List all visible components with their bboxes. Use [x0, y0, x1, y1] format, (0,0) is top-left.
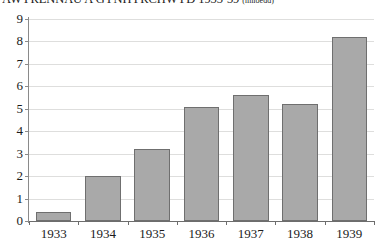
x-axis-tick-label: 1933	[29, 226, 78, 241]
bar	[332, 37, 367, 221]
y-axis-tick-label: 2	[0, 169, 23, 182]
bar	[233, 95, 268, 221]
bar	[36, 212, 71, 221]
x-axis-tick-mark	[177, 221, 178, 225]
y-axis-tick-label: 6	[0, 79, 23, 92]
x-axis-tick-label: 1935	[128, 226, 177, 241]
x-axis-tick-mark	[226, 221, 227, 225]
bars-layer	[29, 19, 374, 221]
bar	[134, 149, 169, 221]
y-axis-tick-label: 5	[0, 102, 23, 115]
x-axis-tick-label: 1939	[325, 226, 374, 241]
x-axis-tick-mark	[275, 221, 276, 225]
bar	[184, 107, 219, 221]
chart-title-main: AWYRENNAU A GYNHYRCHWYD 1933-39	[2, 0, 239, 6]
y-axis-tick-label: 1	[0, 192, 23, 205]
y-axis-tick-label: 4	[0, 124, 23, 137]
y-axis-tick-label: 9	[0, 12, 23, 25]
axis-baseline	[29, 221, 374, 222]
x-axis-tick-label: 1937	[226, 226, 275, 241]
x-axis-tick-mark	[325, 221, 326, 225]
chart-title: AWYRENNAU A GYNHYRCHWYD 1933-39 (miloedd…	[2, 0, 373, 6]
x-axis-tick-label: 1936	[177, 226, 226, 241]
y-axis-tick-label: 0	[0, 214, 23, 227]
chart-title-units: (miloedd)	[242, 0, 274, 5]
y-axis-tick-label: 7	[0, 57, 23, 70]
x-axis-tick-label: 1934	[78, 226, 127, 241]
x-axis-tick-mark	[29, 221, 30, 225]
bar	[85, 176, 120, 221]
bar-chart: AWYRENNAU A GYNHYRCHWYD 1933-39 (miloedd…	[0, 0, 375, 249]
y-axis-tick-label: 8	[0, 34, 23, 47]
x-axis-tick-label: 1938	[275, 226, 324, 241]
y-axis-tick-label: 3	[0, 147, 23, 160]
bar	[282, 104, 317, 221]
x-axis-tick-mark	[78, 221, 79, 225]
x-axis-tick-mark	[128, 221, 129, 225]
